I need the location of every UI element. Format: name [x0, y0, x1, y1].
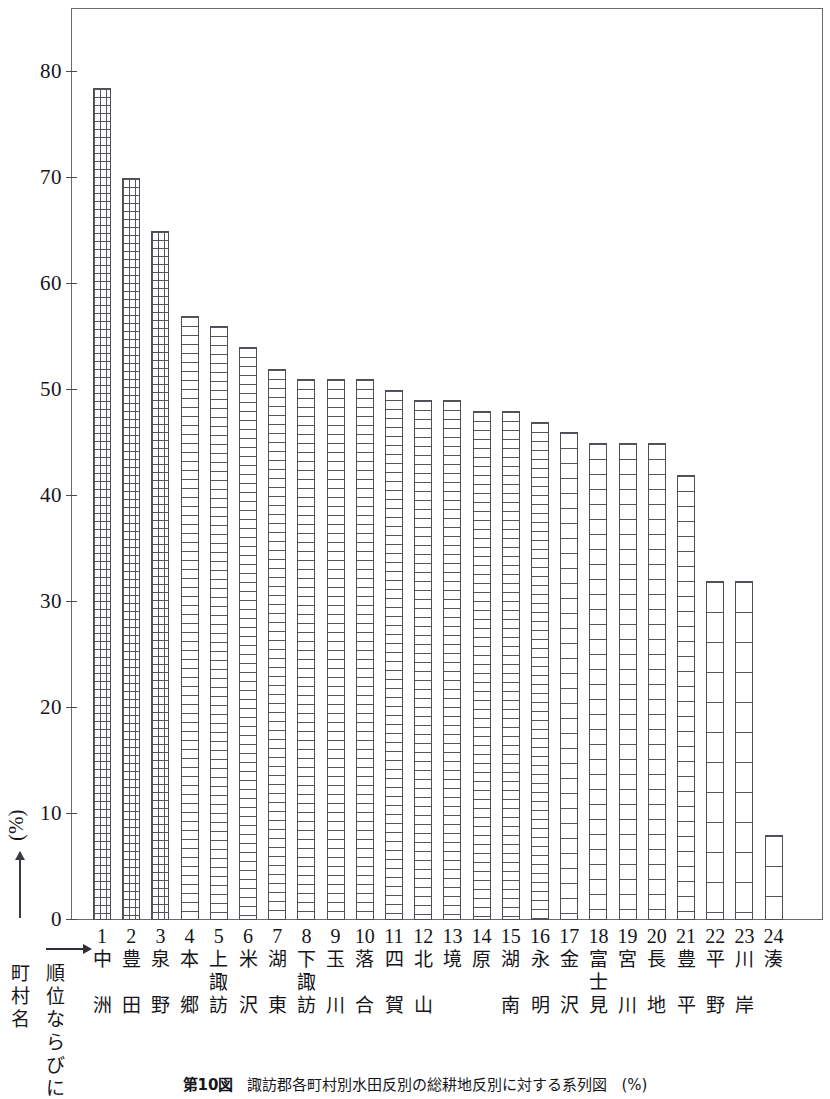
bar-21: [677, 475, 695, 920]
x-town-name-18: 富士見: [587, 948, 609, 1017]
bar-1: [93, 88, 111, 920]
bar-24: [765, 835, 783, 920]
x-rank-8: 8: [295, 924, 317, 948]
x-label-col-15: 15湖 南: [500, 924, 522, 1017]
rank-header-char-4: び: [43, 1054, 67, 1077]
bar-19: [619, 443, 637, 920]
x-town-name-4: 本 郷: [179, 948, 201, 1017]
x-town-name-10: 落 合: [354, 948, 376, 1017]
bar-20: [648, 443, 666, 920]
x-rank-6: 6: [237, 924, 259, 948]
x-label-col-7: 7湖 東: [266, 924, 288, 1017]
y-tick-label-60: 60: [26, 273, 62, 294]
x-rank-19: 19: [617, 924, 639, 948]
bar-23: [735, 581, 753, 920]
rank-header-char-2: な: [43, 1008, 67, 1031]
x-rank-22: 22: [704, 924, 726, 948]
x-label-col-16: 16永 明: [529, 924, 551, 1017]
bar-18: [589, 443, 607, 920]
y-tick-label-30: 30: [26, 591, 62, 612]
x-town-name-24: 湊: [763, 948, 785, 1017]
rank-header-char-0: 順: [43, 962, 67, 985]
x-label-col-6: 6米 沢: [237, 924, 259, 1017]
bar-22: [706, 581, 724, 920]
x-rank-1: 1: [91, 924, 113, 948]
x-town-name-23: 川 岸: [733, 948, 755, 1017]
x-town-name-22: 平 野: [704, 948, 726, 1017]
bar-5: [210, 326, 228, 920]
x-rank-2: 2: [120, 924, 142, 948]
y-tick-label-40: 40: [26, 485, 62, 506]
x-label-col-14: 14原: [471, 924, 493, 1017]
y-tick-label-80: 80: [26, 61, 62, 82]
rank-header-char-3: ら: [43, 1031, 67, 1054]
bars-layer: [71, 8, 823, 920]
bar-14: [473, 411, 491, 920]
x-label-col-4: 4本 郷: [179, 924, 201, 1017]
x-town-name-11: 四 賀: [383, 948, 405, 1017]
x-label-col-12: 12北 山: [412, 924, 434, 1017]
bar-16: [531, 422, 549, 920]
bar-13: [443, 400, 461, 920]
x-town-name-1: 中 洲: [91, 948, 113, 1017]
x-town-name-12: 北 山: [412, 948, 434, 1017]
right-arrow-icon: [46, 948, 90, 950]
x-town-name-7: 湖 東: [266, 948, 288, 1017]
x-town-name-21: 豊 平: [675, 948, 697, 1017]
x-label-col-20: 20長 地: [646, 924, 668, 1017]
caption-unit: (%): [621, 1076, 647, 1094]
x-rank-5: 5: [208, 924, 230, 948]
bar-15: [502, 411, 520, 920]
bar-11: [385, 390, 403, 920]
y-tick-label-70: 70: [26, 167, 62, 188]
x-label-col-22: 22平 野: [704, 924, 726, 1017]
x-label-col-23: 23川 岸: [733, 924, 755, 1017]
bar-9: [327, 379, 345, 920]
x-rank-14: 14: [471, 924, 493, 948]
x-rank-11: 11: [383, 924, 405, 948]
x-rank-7: 7: [266, 924, 288, 948]
bar-2: [122, 178, 140, 920]
x-label-col-2: 2豊 田: [120, 924, 142, 1017]
x-label-col-8: 8下諏訪: [295, 924, 317, 1017]
x-rank-13: 13: [441, 924, 463, 948]
x-town-name-15: 湖 南: [500, 948, 522, 1017]
x-label-col-24: 24湊: [763, 924, 785, 1017]
figure-number: 第10図: [183, 1076, 234, 1094]
x-rank-20: 20: [646, 924, 668, 948]
x-rank-23: 23: [733, 924, 755, 948]
up-arrow-icon: [19, 852, 21, 918]
x-axis-labels: 1中 洲2豊 田3泉 野4本 郷5上諏訪6米 沢7湖 東8下諏訪9玉 川10落 …: [0, 924, 830, 1064]
x-town-name-20: 長 地: [646, 948, 668, 1017]
x-rank-9: 9: [325, 924, 347, 948]
x-town-name-2: 豊 田: [120, 948, 142, 1017]
x-label-col-5: 5上諏訪: [208, 924, 230, 1017]
x-label-col-1: 1中 洲: [91, 924, 113, 1017]
x-rank-3: 3: [149, 924, 171, 948]
x-rank-17: 17: [558, 924, 580, 948]
x-town-name-13: 境: [441, 948, 463, 1017]
x-label-col-13: 13境: [441, 924, 463, 1017]
x-town-name-8: 下諏訪: [295, 948, 317, 1017]
rank-header-char-1: 位: [43, 985, 67, 1008]
bar-10: [356, 379, 374, 920]
x-town-name-17: 金 沢: [558, 948, 580, 1017]
x-town-name-5: 上諏訪: [208, 948, 230, 1017]
y-axis-title: (%): [0, 813, 33, 841]
x-rank-10: 10: [354, 924, 376, 948]
x-rank-21: 21: [675, 924, 697, 948]
bar-6: [239, 347, 257, 920]
bar-7: [268, 369, 286, 920]
bar-12: [414, 400, 432, 920]
x-rank-4: 4: [179, 924, 201, 948]
x-rank-15: 15: [500, 924, 522, 948]
x-label-col-10: 10落 合: [354, 924, 376, 1017]
x-rank-18: 18: [587, 924, 609, 948]
x-label-col-3: 3泉 野: [149, 924, 171, 1017]
bar-3: [151, 231, 169, 920]
bar-4: [181, 316, 199, 920]
x-rank-12: 12: [412, 924, 434, 948]
y-tick-label-50: 50: [26, 379, 62, 400]
x-rank-24: 24: [763, 924, 785, 948]
x-town-name-6: 米 沢: [237, 948, 259, 1017]
